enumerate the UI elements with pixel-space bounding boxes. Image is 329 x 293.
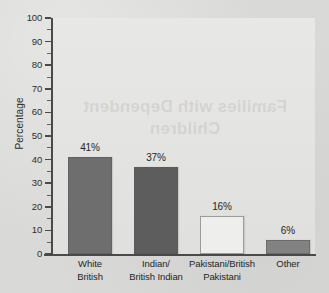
y-tick-minor	[47, 171, 51, 172]
y-tick-label: 30	[16, 177, 42, 188]
y-tick-major	[45, 159, 51, 161]
y-tick-major	[45, 17, 51, 19]
y-tick-label: 10	[16, 224, 42, 235]
y-tick-minor	[47, 77, 51, 78]
y-tick-major	[45, 41, 51, 43]
y-tick-minor	[47, 195, 51, 196]
bar-value-label: 16%	[189, 201, 255, 212]
y-tick-minor	[47, 29, 51, 30]
y-tick-major	[45, 64, 51, 66]
y-tick-minor	[47, 147, 51, 148]
y-tick-label: 50	[16, 130, 42, 141]
bar-chart: Families with Dependent Children Percent…	[0, 0, 329, 293]
bar	[266, 240, 310, 254]
x-axis-line	[44, 254, 316, 256]
bar-value-label: 37%	[123, 152, 189, 163]
y-tick-label: 70	[16, 83, 42, 94]
y-tick-label: 20	[16, 201, 42, 212]
y-tick-minor	[47, 242, 51, 243]
y-tick-minor	[47, 124, 51, 125]
y-tick-minor	[47, 53, 51, 54]
y-tick-minor	[47, 218, 51, 219]
y-tick-major	[45, 230, 51, 232]
y-tick-major	[45, 182, 51, 184]
bar	[68, 157, 112, 254]
y-axis-line	[51, 18, 53, 255]
bar	[200, 216, 244, 254]
y-tick-minor	[47, 100, 51, 101]
y-tick-label: 80	[16, 59, 42, 70]
y-tick-major	[45, 112, 51, 114]
y-tick-major	[45, 206, 51, 208]
category-label: Other	[248, 258, 328, 271]
y-tick-label: 40	[16, 154, 42, 165]
y-tick-label: 90	[16, 36, 42, 47]
y-tick-major	[45, 253, 51, 255]
bar	[134, 167, 178, 254]
y-tick-major	[45, 88, 51, 90]
bar-value-label: 6%	[255, 225, 321, 236]
y-tick-label: 100	[16, 12, 42, 23]
bar-value-label: 41%	[57, 142, 123, 153]
y-tick-label: 0	[16, 248, 42, 259]
y-tick-major	[45, 135, 51, 137]
y-tick-label: 60	[16, 106, 42, 117]
